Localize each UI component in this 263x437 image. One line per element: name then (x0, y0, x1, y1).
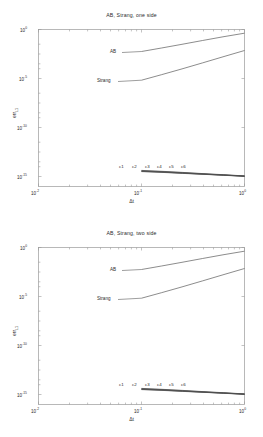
y-tick-label: 10-15 (17, 173, 27, 180)
curve-label-c3: c3 (145, 382, 150, 387)
curve-label-ab: AB (110, 267, 116, 272)
data-curves (142, 251, 245, 394)
data-curves (142, 33, 245, 176)
y-tick-label: 100 (20, 244, 27, 251)
figure-one-side: AB, Strang, one side (0, 0, 263, 218)
curve-label-c4: c4 (157, 164, 162, 169)
curve-strang (142, 51, 245, 81)
curve-label-strang: Strang (97, 296, 111, 301)
y-tick-label: 10-10 (17, 124, 27, 131)
y-axis-label: errL1 (11, 326, 19, 336)
y-axis-label: errL1 (11, 108, 19, 118)
plot-frame (39, 30, 245, 187)
label-leader-lines (118, 270, 142, 300)
y-tick-label: 10-5 (19, 75, 27, 82)
x-tick-label: 10-2 (31, 189, 39, 196)
curve-label-c6: c6 (181, 382, 186, 387)
y-tick-label: 10-5 (19, 293, 27, 300)
curve-label-c2: c2 (132, 382, 137, 387)
x-tick-label: 10-2 (31, 407, 39, 414)
curve-label-c3: c3 (145, 164, 150, 169)
plot-canvas-two-side (0, 218, 263, 436)
curve-label-strang: Strang (97, 78, 111, 83)
curve-label-c6: c6 (181, 164, 186, 169)
y-tick-label: 10-10 (17, 342, 27, 349)
curve-c6 (142, 390, 245, 395)
curve-ab (142, 251, 245, 269)
x-axis-label: Δt (0, 416, 263, 422)
curve-c6 (142, 172, 245, 177)
x-axis-ticks (39, 30, 245, 187)
curve-label-c5: c5 (169, 382, 174, 387)
y-tick-label: 100 (20, 26, 27, 33)
x-axis-ticks (39, 248, 245, 405)
x-axis-label: Δt (0, 198, 263, 204)
curve-ab (142, 33, 245, 51)
figure-page: AB, Strang, one side (0, 0, 263, 437)
y-tick-label: 10-15 (17, 391, 27, 398)
curve-label-c1: c1 (119, 382, 124, 387)
curve-label-c1: c1 (119, 164, 124, 169)
x-tick-label: 10-1 (134, 407, 142, 414)
curve-strang (142, 269, 245, 299)
curve-label-c2: c2 (132, 164, 137, 169)
curve-label-c4: c4 (157, 382, 162, 387)
figure-two-side: AB, Strang, two side (0, 218, 263, 436)
x-tick-label: 100 (239, 189, 246, 196)
x-tick-label: 100 (239, 407, 246, 414)
curve-label-c5: c5 (169, 164, 174, 169)
label-leader-lines (118, 52, 142, 82)
curve-label-ab: AB (110, 49, 116, 54)
plot-frame (39, 248, 245, 405)
plot-canvas-one-side (0, 0, 263, 218)
x-tick-label: 10-1 (134, 189, 142, 196)
